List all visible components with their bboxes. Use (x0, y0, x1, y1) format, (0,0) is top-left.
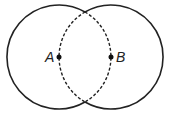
circle-b-dashed-arc (59, 12, 85, 102)
point-a (57, 55, 62, 60)
intersecting-circles-diagram: A B (0, 0, 169, 115)
label-a: A (44, 49, 54, 65)
point-b (109, 55, 114, 60)
circle-a-dashed-arc (85, 12, 111, 102)
label-b: B (116, 49, 125, 65)
